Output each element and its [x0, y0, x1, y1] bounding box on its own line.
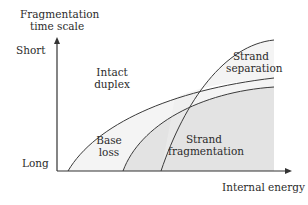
x-axis-label: Internal energy: [222, 181, 305, 193]
x-axis-arrow-icon: [285, 168, 292, 174]
region-label-line1: Strand: [226, 50, 276, 62]
y-axis-label-line2: time scale: [20, 20, 94, 32]
region-intact-duplex: Intact duplex: [92, 66, 132, 90]
region-label-line2: fragmentation: [168, 145, 240, 157]
region-label-line2: separation: [226, 62, 276, 74]
region-strand-separation: Strand separation: [226, 50, 276, 74]
region-label-line2: loss: [95, 146, 123, 158]
y-bottom-label: Long: [22, 157, 49, 169]
region-label-line1: Intact: [92, 66, 132, 78]
region-base-loss: Base loss: [95, 134, 123, 158]
y-top-label: Short: [16, 44, 46, 56]
region-label-line1: Base: [95, 134, 123, 146]
region-label-line1: Strand: [168, 133, 240, 145]
y-axis-arrow-icon: [54, 37, 60, 44]
y-axis-label-line1: Fragmentation: [20, 8, 94, 20]
region-label-line2: duplex: [92, 78, 132, 90]
y-axis-label: Fragmentation time scale: [20, 8, 94, 32]
region-strand-fragmentation: Strand fragmentation: [168, 133, 240, 157]
